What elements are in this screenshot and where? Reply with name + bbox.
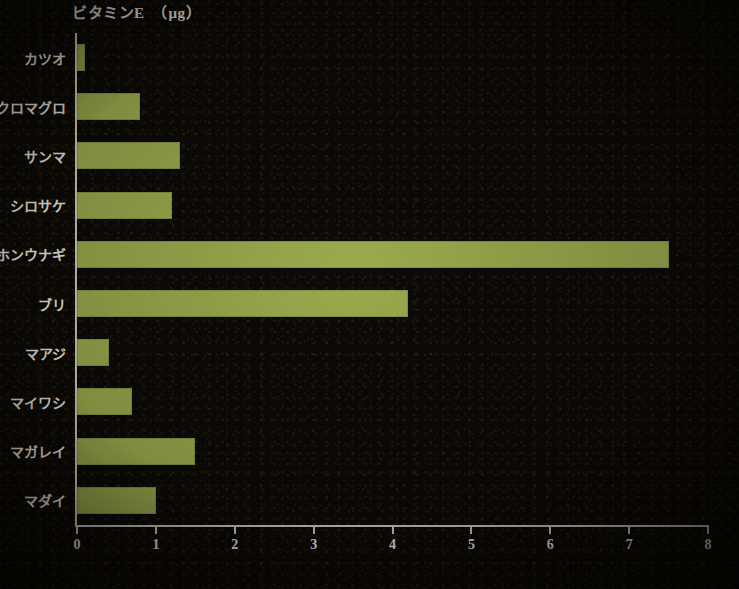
bar-row <box>77 328 708 377</box>
bar <box>77 290 408 317</box>
bar <box>77 339 109 366</box>
x-axis-tick <box>313 525 315 534</box>
bar <box>77 438 195 465</box>
y-axis-label-cell: マダイ <box>24 476 66 525</box>
x-axis-tick <box>76 525 78 534</box>
y-axis-label: ブリ <box>38 294 66 314</box>
bar <box>77 241 669 268</box>
bar <box>77 142 180 169</box>
x-axis-tick <box>470 525 472 534</box>
y-axis-category-labels: カツオクロマグロサンマシロサケホンウナギブリマアジマイワシマガレイマダイ <box>0 33 72 525</box>
x-axis-tick <box>628 525 630 534</box>
chart-page: ビタミンE （μg） カツオクロマグロサンマシロサケホンウナギブリマアジマイワシ… <box>0 0 739 589</box>
y-axis-label: シロサケ <box>10 195 66 215</box>
plot-area: 012345678 <box>77 33 708 525</box>
y-axis-label: サンマ <box>24 146 66 166</box>
bar-row <box>77 230 708 279</box>
bar-row <box>77 82 708 131</box>
y-axis-label: マガレイ <box>10 441 66 461</box>
y-axis-label: マイワシ <box>10 392 66 412</box>
x-axis-tick <box>234 525 236 534</box>
bar-row <box>77 33 708 82</box>
x-axis-tick-label: 6 <box>547 537 554 553</box>
y-axis-label-cell: クロマグロ <box>0 82 66 131</box>
y-axis-label-cell: サンマ <box>24 131 66 180</box>
x-axis-tick-label: 1 <box>152 537 159 553</box>
bar-row <box>77 181 708 230</box>
y-axis-label-cell: ブリ <box>38 279 66 328</box>
y-axis-label-cell: カツオ <box>24 33 66 82</box>
bar-row <box>77 377 708 426</box>
x-axis-tick-label: 5 <box>468 537 475 553</box>
chart-title: ビタミンE （μg） <box>72 1 201 22</box>
bar <box>77 487 156 514</box>
bar <box>77 192 172 219</box>
x-axis-tick-label: 3 <box>310 537 317 553</box>
y-axis-label: クロマグロ <box>0 97 66 117</box>
x-axis-tick <box>549 525 551 534</box>
bar <box>77 44 85 71</box>
x-axis-tick <box>707 525 709 534</box>
bar-row <box>77 279 708 328</box>
y-axis-label: マダイ <box>24 490 66 510</box>
y-axis-label: カツオ <box>24 48 66 68</box>
x-axis-tick-label: 4 <box>389 537 396 553</box>
y-axis-line <box>75 33 77 525</box>
x-axis-tick <box>392 525 394 534</box>
bar-row <box>77 131 708 180</box>
x-axis-tick <box>155 525 157 534</box>
y-axis-label-cell: シロサケ <box>10 181 66 230</box>
bar-row <box>77 427 708 476</box>
bar <box>77 93 140 120</box>
y-axis-label-cell: マアジ <box>25 328 66 377</box>
x-axis-tick-label: 0 <box>74 537 81 553</box>
bar <box>77 388 132 415</box>
x-axis-tick-label: 7 <box>626 537 633 553</box>
bar-row <box>77 476 708 525</box>
y-axis-label-cell: マガレイ <box>10 427 66 476</box>
x-axis-tick-label: 2 <box>231 537 238 553</box>
y-axis-label: マアジ <box>25 343 66 363</box>
y-axis-label-cell: マイワシ <box>10 377 66 426</box>
y-axis-label-cell: ホンウナギ <box>0 230 66 279</box>
x-axis-tick-label: 8 <box>705 537 712 553</box>
y-axis-label: ホンウナギ <box>0 244 66 264</box>
